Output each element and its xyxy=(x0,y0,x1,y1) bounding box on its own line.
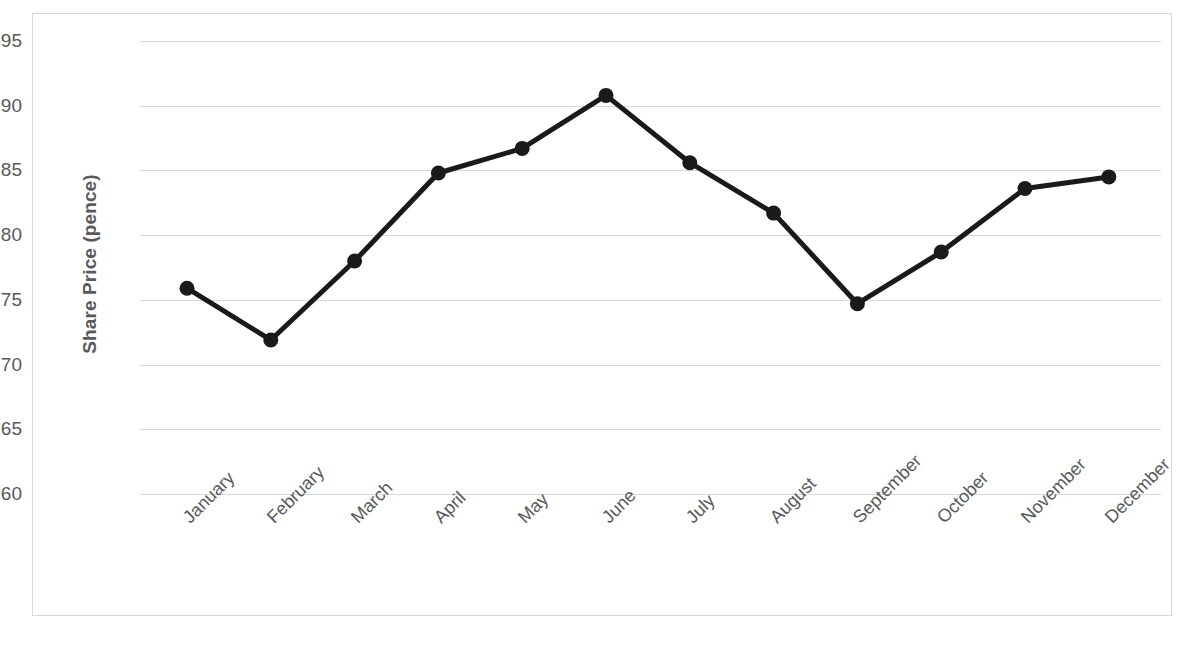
data-point-marker[interactable] xyxy=(599,88,614,103)
y-axis-title-text: Share Price (pence) xyxy=(79,24,101,504)
data-point-marker[interactable] xyxy=(934,245,949,260)
data-point-marker[interactable] xyxy=(347,254,362,269)
y-axis-tick-label: 60 xyxy=(0,483,22,505)
data-point-marker[interactable] xyxy=(850,296,865,311)
y-axis-tick-label: 85 xyxy=(0,159,22,181)
data-point-marker[interactable] xyxy=(1018,181,1033,196)
x-axis-tick-label: July xyxy=(682,490,719,527)
bottom-left-artifact xyxy=(8,630,68,644)
data-point-marker[interactable] xyxy=(515,141,530,156)
data-point-marker[interactable] xyxy=(180,281,195,296)
data-point-marker[interactable] xyxy=(766,206,781,221)
line-series xyxy=(140,41,1161,494)
y-axis-tick-label: 65 xyxy=(0,418,22,440)
data-point-marker[interactable] xyxy=(431,166,446,181)
x-axis-tick-labels: JanuaryFebruaryMarchAprilMayJuneJulyAugu… xyxy=(140,501,1161,621)
data-point-marker[interactable] xyxy=(263,333,278,348)
plot-area: 9590858075706560 xyxy=(140,41,1161,494)
y-axis-title: Share Price (pence) xyxy=(27,0,57,14)
series-line xyxy=(187,95,1109,340)
x-axis-tick-label-text: July xyxy=(682,490,719,527)
chart-frame: Share Price (pence) 9590858075706560 Jan… xyxy=(32,13,1172,616)
y-axis-tick-label: 90 xyxy=(0,95,22,117)
y-axis-tick-label: 80 xyxy=(0,224,22,246)
data-point-marker[interactable] xyxy=(1101,169,1116,184)
y-axis-tick-label: 95 xyxy=(0,30,22,52)
y-axis-tick-label: 70 xyxy=(0,354,22,376)
y-axis-tick-label: 75 xyxy=(0,289,22,311)
data-point-marker[interactable] xyxy=(682,155,697,170)
